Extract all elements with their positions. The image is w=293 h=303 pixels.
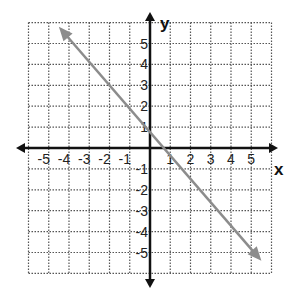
y-tick-label: -3: [136, 203, 149, 219]
x-tick-label: -5: [38, 151, 51, 167]
x-tick-label: -3: [78, 151, 91, 167]
x-axis-right-arrow-icon: [269, 143, 278, 153]
y-tick-label: 5: [140, 36, 148, 52]
x-axis-left-arrow-icon: [16, 143, 25, 153]
y-tick-label: -1: [136, 161, 149, 177]
y-tick-label: 4: [140, 56, 148, 72]
x-axis-label: x: [274, 160, 284, 179]
x-tick-label: 4: [227, 151, 235, 167]
x-tick-label: -4: [58, 151, 71, 167]
y-tick-label: -5: [136, 245, 149, 261]
coordinate-plane: -5-4-3-2-11234554321-1-2-3-4-5 x y: [0, 0, 293, 303]
x-tick-label: -1: [119, 151, 132, 167]
x-tick-label: 2: [187, 151, 195, 167]
y-tick-label: 2: [140, 98, 148, 114]
y-axis-label: y: [160, 14, 170, 33]
x-tick-label: 5: [247, 151, 255, 167]
y-axis-up-arrow-icon: [145, 12, 155, 21]
line-graph: [66, 35, 254, 252]
y-tick-label: 3: [140, 77, 148, 93]
y-tick-label: -2: [136, 182, 149, 198]
x-tick-label: -2: [98, 151, 111, 167]
y-axis-down-arrow-icon: [145, 279, 155, 288]
x-tick-label: 3: [207, 151, 215, 167]
y-tick-label: -4: [136, 224, 149, 240]
